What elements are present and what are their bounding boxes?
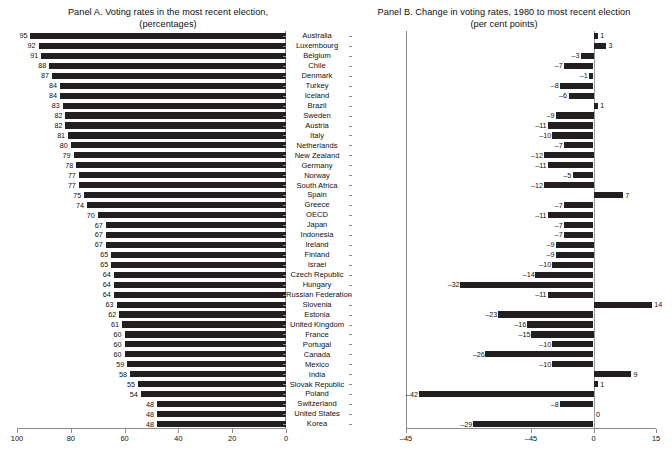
panel-b-bar-row: –23 [406,310,656,319]
panel-a-title-line2: (percentages) [0,18,336,30]
panel-a-bar-row: 84 [17,91,286,100]
panel-a-tick-label: 100 [11,434,23,443]
panel-b-bar [552,361,594,367]
panel-b-bar [560,401,593,407]
panel-b-value-label: –11 [535,121,546,130]
panel-b-tick [406,429,407,433]
panel-b-bar-row: –9 [406,240,656,249]
panel-a-value-label: 92 [28,41,36,50]
panel-b-bar [594,103,598,109]
panel-b-bar-row: –12 [406,180,656,189]
panel-b-value-label: –32 [448,280,459,289]
panel-b: Panel B. Change in voting rates, 1980 to… [336,0,672,457]
panel-b-value-label: –7 [552,141,563,150]
panel-b-bar-row: 0 [406,409,656,418]
panel-a-value-label: 79 [63,151,71,160]
panel-b-value-label: –10 [539,360,550,369]
panel-a-bar-row: 87 [17,71,286,80]
panel-a-bar-row: 84 [17,81,286,90]
panel-a-bar-row: 92 [17,41,286,50]
panel-a-value-label: 59 [116,360,124,369]
panel-a-bar-row: 60 [17,349,286,358]
panel-b-bar [548,122,594,128]
panel-b-bar [556,112,594,118]
panel-a-bar [127,361,286,367]
panel-a-bar-row: 75 [17,190,286,199]
panel-a-value-label: 78 [65,161,73,170]
panel-a-bar-row: 48 [17,409,286,418]
panel-a-bar-row: 83 [17,101,286,110]
panel-b-bar-row: –32 [406,280,656,289]
panel-b-bar-row: –3 [406,51,656,60]
panel-b-value-label: –10 [539,340,550,349]
panel-b-value-label: 9 [634,370,638,379]
panel-b-bar [573,172,594,178]
panel-a-bar [65,122,286,128]
panel-a-bar [79,182,286,188]
panel-a-title: Panel A. Voting rates in the most recent… [0,6,336,31]
panel-b-bar-row: 3 [406,41,656,50]
panel-b-value-label: 1 [600,380,604,389]
panel-a-bar [130,371,286,377]
panel-a-title-line1: Panel A. Voting rates in the most recent… [68,7,268,17]
panel-b-value-label: –5 [560,171,571,180]
panel-b-bar [556,242,594,248]
panel-a-bar [157,411,286,417]
panel-a-bar-row: 80 [17,140,286,149]
panel-a-bar [79,172,286,178]
panel-a-bar-row: 78 [17,160,286,169]
panel-a-bar [119,311,286,317]
panel-a-value-label: 64 [103,270,111,279]
panel-b-bar [564,232,593,238]
panel-b-tick-label: 15 [652,434,660,443]
panel-b-bar-row: 1 [406,101,656,110]
panel-b-bar [569,93,594,99]
panel-a-value-label: 70 [87,211,95,220]
panel-b-bar-row: –10 [406,339,656,348]
panel-b-bar [419,391,594,397]
panel-a-bar-row: 70 [17,210,286,219]
panel-b-bar-row: –11 [406,290,656,299]
panel-b-value-label: –14 [523,270,534,279]
panel-a-bar-row: 58 [17,369,286,378]
panel-b-bar [535,272,593,278]
panel-a-bar [125,331,286,337]
panel-b-bar [594,381,598,387]
panel-b-bar [548,292,594,298]
panel-a-bar [111,262,286,268]
panel-a-tick [232,429,233,433]
panel-a-tick [178,429,179,433]
panel-b-bar-row: –8 [406,399,656,408]
panel-b-bar [594,302,652,308]
panel-a-value-label: 67 [95,230,103,239]
panel-a-bar [106,222,286,228]
panel-a-bar-row: 60 [17,330,286,339]
panel-a-bar-row: 64 [17,270,286,279]
panel-b-value-label: –12 [531,181,542,190]
panel-b-tick-label: –45 [400,434,412,443]
panel-a-bar-row: 65 [17,260,286,269]
panel-b-bar [564,142,593,148]
panel-b-value-label: –9 [544,111,555,120]
panel-b-bar [560,83,593,89]
panel-b-bar [552,341,594,347]
panel-a-bar [106,242,286,248]
panel-a-value-label: 84 [49,81,57,90]
panel-b-bar-row: –29 [406,419,656,428]
panel-a-bar-row: 60 [17,339,286,348]
panel-a-bar [84,192,286,198]
panel-b-bar-row: –7 [406,200,656,209]
panel-a-bar [76,162,286,168]
panel-a-value-label: 83 [52,101,60,110]
panel-b-value-label: 14 [654,300,662,309]
panel-b-bar-row: –16 [406,320,656,329]
panel-b-bar [594,371,632,377]
panel-b-value-label: –29 [460,420,471,429]
panel-b-value-label: –11 [535,290,546,299]
panel-a-value-label: 55 [127,380,135,389]
panel-b-value-label: 1 [600,101,604,110]
panel-b-x-axis: –45–45015 [406,429,656,455]
panel-a-bar-row: 74 [17,200,286,209]
panel-a-bar [117,302,286,308]
panel-a-tick [17,429,18,433]
